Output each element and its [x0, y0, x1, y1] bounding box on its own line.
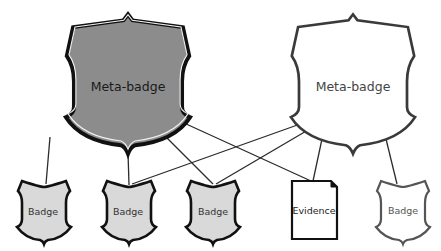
edge-meta-right-badge-5	[386, 139, 397, 184]
evidence-label: Evidence	[292, 205, 335, 216]
meta-badge-dark-label: Meta-badge	[91, 79, 166, 94]
meta-badge-outline-label: Meta-badge	[316, 79, 391, 94]
edge-meta-left-badge-1	[46, 137, 50, 184]
badge-1-label: Badge	[28, 206, 58, 217]
badge-5-label: Badge	[388, 205, 418, 216]
badge-diagram: Meta-badge Meta-badge Badge Badge Badge …	[0, 0, 441, 251]
badge-3-label: Badge	[198, 206, 228, 217]
edge-meta-left-evidence	[184, 123, 311, 181]
badge-2-label: Badge	[113, 206, 143, 217]
edge-meta-left-badge-3	[164, 135, 213, 184]
edge-meta-right-evidence	[313, 139, 322, 181]
document-fold-icon	[331, 181, 337, 187]
